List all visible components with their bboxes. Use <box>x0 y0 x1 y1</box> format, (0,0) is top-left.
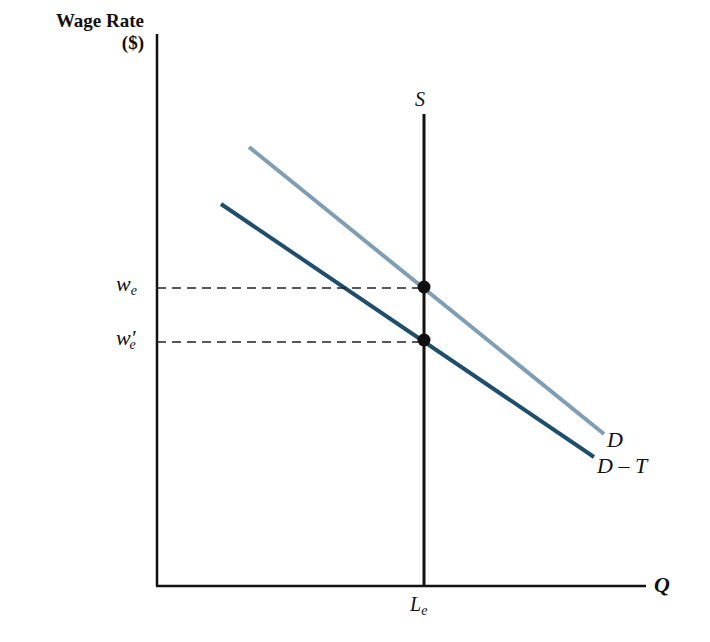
wage-label: we <box>116 271 137 299</box>
wage-prime-label: w′e <box>116 325 136 353</box>
quantity-label: Le <box>410 593 427 619</box>
supply-label: S <box>415 88 425 111</box>
demand-label: D <box>607 427 623 453</box>
equilibrium-point <box>418 281 431 294</box>
y-axis-label-line2: ($) <box>56 32 144 54</box>
demand-tax-label: D – T <box>597 453 647 479</box>
y-axis-label: Wage Rate ($) <box>56 10 144 54</box>
demand-minus-tax-curve <box>221 204 594 457</box>
equilibrium-point-after-tax <box>418 334 431 347</box>
x-axis-label: Q <box>654 572 670 598</box>
y-axis-label-line1: Wage Rate <box>56 10 144 32</box>
diagram-canvas <box>0 0 710 642</box>
